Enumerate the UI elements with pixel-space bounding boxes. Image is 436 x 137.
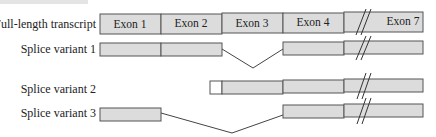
exon-1-label: Exon 1 bbox=[114, 18, 147, 30]
full-length-transcript: Exon 1 Exon 2 Exon 3 Exon 4 Exon 7 bbox=[100, 9, 423, 35]
v1-exon-1 bbox=[100, 43, 161, 56]
splice-variant-2 bbox=[210, 73, 423, 99]
splicing-diagram: Exon 1 Exon 2 Exon 3 Exon 4 Exon 7 bbox=[0, 0, 436, 137]
v3-splice-junction bbox=[161, 113, 283, 133]
v1-exon-7 bbox=[344, 41, 423, 54]
v3-exon-7 bbox=[344, 104, 423, 117]
v2-alt-start bbox=[210, 81, 222, 94]
v3-exon-1 bbox=[100, 108, 161, 121]
v1-splice-junction bbox=[222, 49, 283, 68]
v2-exon-3 bbox=[283, 80, 344, 93]
v1-exon-4 bbox=[283, 42, 344, 55]
v3-exon-4 bbox=[283, 105, 344, 118]
splice-variant-1 bbox=[100, 36, 423, 68]
splice-variant-3 bbox=[100, 98, 423, 133]
exon-7-label: Exon 7 bbox=[387, 15, 420, 27]
v2-exon-7 bbox=[344, 79, 423, 92]
exon-2-label: Exon 2 bbox=[175, 17, 208, 29]
v1-exon-2 bbox=[161, 43, 222, 56]
v2-exon-2 bbox=[222, 81, 283, 94]
exon-4-label: Exon 4 bbox=[297, 16, 330, 28]
exon-3-label: Exon 3 bbox=[236, 17, 269, 29]
